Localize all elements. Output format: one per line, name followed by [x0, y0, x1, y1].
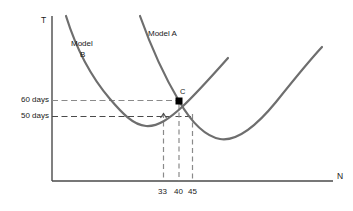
x-tick-label-33: 33 — [158, 187, 167, 196]
y-tick-label-50-days: 50 days — [7, 111, 49, 120]
x-tick-label-40: 40 — [174, 187, 183, 196]
y-tick-label-60-days: 60 days — [7, 95, 49, 104]
y-axis-label: T — [41, 16, 46, 26]
axes-group — [52, 16, 333, 181]
series-label-model-b-line1: Model — [71, 39, 93, 48]
series-label-model-a: Model A — [148, 29, 177, 38]
x-axis-label: N — [337, 172, 343, 182]
intersection-point-label: C — [180, 88, 185, 97]
intersection-point-marker — [176, 98, 183, 105]
chart-figure: T N Model B Model A C 60 days 50 days 33… — [0, 0, 353, 211]
horizontal-guide-lines — [52, 101, 192, 117]
series-label-model-b-line2: B — [80, 50, 85, 59]
x-tick-label-45: 45 — [188, 187, 197, 196]
